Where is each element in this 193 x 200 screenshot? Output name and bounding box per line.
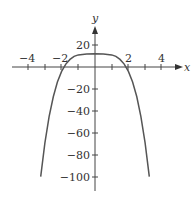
y-axis-label: y xyxy=(91,12,99,25)
y-tick-label: −80 xyxy=(67,149,90,162)
x-axis-label: x xyxy=(184,61,191,74)
x-tick-label: 2 xyxy=(125,52,132,65)
y-tick-label: −20 xyxy=(67,83,90,96)
y-tick-label: −40 xyxy=(67,105,90,118)
y-tick-label: 20 xyxy=(76,39,90,52)
chart: x y −4 −2 2 4 20 −20 −40 −60 −80 −100 xyxy=(0,0,193,200)
x-axis-arrow-icon xyxy=(175,64,183,70)
x-tick-label: −4 xyxy=(19,52,35,65)
x-tick-label: 4 xyxy=(158,52,165,65)
y-axis-arrow-icon xyxy=(92,26,98,34)
y-tick-label: −60 xyxy=(67,127,90,140)
y-tick-label: −100 xyxy=(60,171,90,184)
